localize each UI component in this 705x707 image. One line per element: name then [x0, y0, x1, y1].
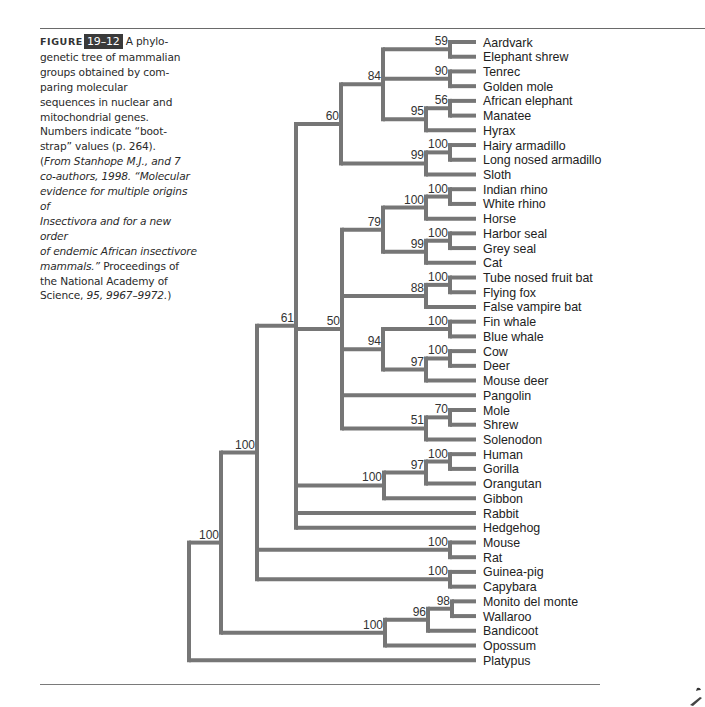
leaf-label: Hedgehog	[483, 521, 540, 535]
bootstrap-value: 100	[428, 535, 448, 549]
leaf-label: False vampire bat	[483, 300, 582, 314]
bootstrap-value: 59	[435, 34, 449, 48]
bootstrap-value: 79	[368, 215, 382, 229]
bootstrap-value: 50	[327, 314, 341, 328]
bootstrap-value: 99	[411, 237, 425, 251]
bootstrap-value: 100	[428, 137, 448, 151]
bootstrap-value: 100	[404, 193, 424, 207]
leaf-label: Gorilla	[483, 462, 519, 476]
leaf-label: Cow	[483, 345, 508, 359]
leaf-label: Mouse	[483, 536, 520, 550]
leaf-label: Wallaroo	[483, 610, 532, 624]
leaf-label: Mouse deer	[483, 374, 548, 388]
leaf-label: Human	[483, 448, 523, 462]
bootstrap-value: 90	[435, 64, 449, 78]
bootstrap-value: 100	[428, 182, 448, 196]
leaf-label: Tube nosed fruit bat	[483, 271, 593, 285]
leaf-label: Aardvark	[483, 36, 533, 50]
bootstrap-value: 99	[411, 148, 425, 162]
leaf-label: Cat	[483, 256, 503, 270]
leaf-label: Orangutan	[483, 477, 542, 491]
leaf-label: Rabbit	[483, 507, 519, 521]
bootstrap-value: 100	[363, 618, 383, 632]
bootstrap-value: 60	[326, 109, 340, 123]
bootstrap-value: 51	[411, 413, 425, 427]
leaf-label: Opossum	[483, 639, 536, 653]
leaf-label: Tenrec	[483, 65, 520, 79]
leaf-label: Elephant shrew	[483, 50, 568, 64]
bootstrap-value: 61	[281, 311, 295, 325]
bootstrap-value: 100	[428, 447, 448, 461]
leaf-label: Rat	[483, 551, 503, 565]
bootstrap-value: 98	[437, 594, 451, 608]
leaf-label: Solenodon	[483, 433, 542, 447]
leaf-label: Deer	[483, 359, 510, 373]
bootstrap-value: 100	[235, 438, 255, 452]
leaf-label: Hyrax	[483, 124, 516, 138]
leaf-label: Shrew	[483, 418, 518, 432]
leaf-label: Bandicoot	[483, 624, 539, 638]
leaf-label: Mole	[483, 404, 510, 418]
leaf-label: Capybara	[483, 580, 537, 594]
bootstrap-value: 100	[428, 314, 448, 328]
bootstrap-value: 100	[199, 528, 219, 542]
bootstrap-value: 97	[411, 355, 425, 369]
leaf-label: Platypus	[483, 654, 531, 668]
page-corner-ornament-icon	[688, 686, 704, 706]
leaf-label: Long nosed armadillo	[483, 153, 602, 167]
leaf-label: African elephant	[483, 94, 573, 108]
leaf-label: Golden mole	[483, 80, 553, 94]
bootstrap-value: 100	[428, 270, 448, 284]
bootstrap-value: 100	[362, 470, 382, 484]
bootstrap-value: 84	[368, 69, 382, 83]
leaf-label: Hairy armadillo	[483, 139, 566, 153]
leaf-label: Fin whale	[483, 315, 536, 329]
bootstrap-value: 100	[428, 564, 448, 578]
bootstrap-value: 95	[411, 104, 425, 118]
leaf-label: Pangolin	[483, 389, 531, 403]
bootstrap-value: 70	[435, 402, 449, 416]
bootstrap-value: 96	[413, 605, 427, 619]
bootstrap-value: 100	[428, 343, 448, 357]
bootstrap-value: 97	[411, 458, 425, 472]
leaf-label: Harbor seal	[483, 227, 547, 241]
leaf-label: Horse	[483, 212, 516, 226]
leaf-label: Flying fox	[483, 286, 537, 300]
phylogenetic-tree: 1001006160845990955699100507910010099100…	[0, 0, 705, 707]
leaf-label: White rhino	[483, 197, 546, 211]
leaf-label: Gibbon	[483, 492, 523, 506]
bootstrap-value: 88	[411, 281, 425, 295]
leaf-label: Monito del monte	[483, 595, 578, 609]
bootstrap-value: 100	[428, 226, 448, 240]
leaf-label: Guinea-pig	[483, 565, 544, 579]
leaf-labels: AardvarkElephant shrewTenrecGolden moleA…	[483, 36, 602, 668]
leaf-label: Sloth	[483, 168, 511, 182]
bottom-rule	[40, 684, 600, 685]
leaf-label: Manatee	[483, 109, 531, 123]
bootstrap-value: 94	[368, 334, 382, 348]
leaf-label: Blue whale	[483, 330, 544, 344]
leaf-label: Indian rhino	[483, 183, 548, 197]
leaf-label: Grey seal	[483, 242, 536, 256]
bootstrap-value: 56	[435, 93, 449, 107]
